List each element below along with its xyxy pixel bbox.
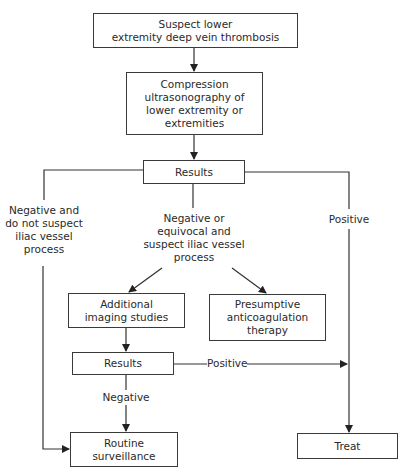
node-results-1: Results	[143, 160, 245, 184]
node-treat: Treat	[297, 433, 398, 459]
node-suspect-dvt: Suspect lower extremity deep vein thromb…	[93, 13, 298, 48]
label-positive-1: Positive	[324, 213, 374, 226]
label-negative-2: Negative	[100, 391, 152, 404]
node-results-2: Results	[72, 352, 174, 375]
node-compression-ultrasonography: Compression ultrasonography of lower ext…	[126, 72, 263, 135]
label-positive-2: Positive	[207, 357, 247, 370]
label-negative-equivocal-iliac: Negative or equivocal and suspect iliac …	[140, 212, 248, 264]
label-negative-no-iliac: Negative and do not suspect iliac vessel…	[2, 204, 86, 256]
node-routine-surveillance: Routine surveillance	[70, 432, 178, 467]
node-additional-imaging: Additional imaging studies	[68, 293, 185, 328]
node-presumptive-anticoagulation: Presumptive anticoagulation therapy	[209, 294, 326, 341]
